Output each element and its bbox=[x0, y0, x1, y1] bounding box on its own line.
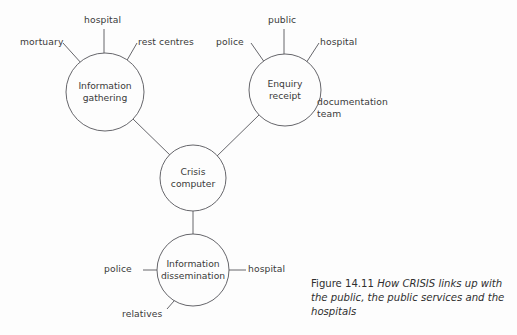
leader-rest-centres bbox=[126, 43, 137, 62]
node-information-dissemination[interactable]: Information dissemination bbox=[157, 234, 229, 306]
leader-mortuary bbox=[63, 43, 82, 64]
node-label-crisis-computer-line1: Crisis bbox=[181, 166, 206, 177]
node-label-crisis-computer-line2: computer bbox=[171, 178, 216, 189]
figure-caption-number: Figure 14.11 bbox=[311, 278, 374, 289]
node-label-enquiry-receipt-line1: Enquiry bbox=[267, 78, 303, 89]
leaf-label-public: public bbox=[268, 14, 296, 26]
leader-hospital-enquiry bbox=[306, 43, 319, 63]
leaf-label-police-enquiry: police bbox=[216, 36, 244, 48]
node-label-information-dissemination-line2: dissemination bbox=[161, 270, 225, 281]
node-label-information-dissemination-line1: Information bbox=[166, 258, 219, 269]
node-information-gathering[interactable]: Information gathering bbox=[66, 53, 144, 131]
leaf-label-rest-centres: rest centres bbox=[138, 36, 194, 48]
leaf-label-hospital-enquiry: hospital bbox=[320, 36, 357, 48]
edge-information-gathering-crisis-computer bbox=[133, 119, 172, 157]
leaf-label-mortuary: mortuary bbox=[20, 36, 63, 48]
leaf-label-documentation-team: documentation team bbox=[317, 96, 388, 119]
figure-container: Information gathering Enquiry receipt Cr… bbox=[0, 0, 517, 335]
leaf-label-hospital-gathering: hospital bbox=[84, 14, 121, 26]
node-label-information-gathering-line1: Information bbox=[78, 80, 131, 91]
leaf-label-relatives: relatives bbox=[122, 308, 162, 320]
node-label-information-gathering-line2: gathering bbox=[83, 92, 128, 103]
node-enquiry-receipt[interactable]: Enquiry receipt bbox=[249, 54, 321, 126]
leaf-label-hospital-dissemination: hospital bbox=[248, 263, 285, 275]
edge-enquiry-receipt-crisis-computer bbox=[215, 115, 259, 158]
node-crisis-computer[interactable]: Crisis computer bbox=[160, 145, 226, 211]
leaf-label-police-dissemination: police bbox=[104, 263, 132, 275]
figure-caption: Figure 14.11 How CRISIS links up with th… bbox=[311, 277, 511, 320]
leader-police-enquiry bbox=[251, 43, 265, 63]
node-label-enquiry-receipt-line2: receipt bbox=[269, 90, 301, 101]
